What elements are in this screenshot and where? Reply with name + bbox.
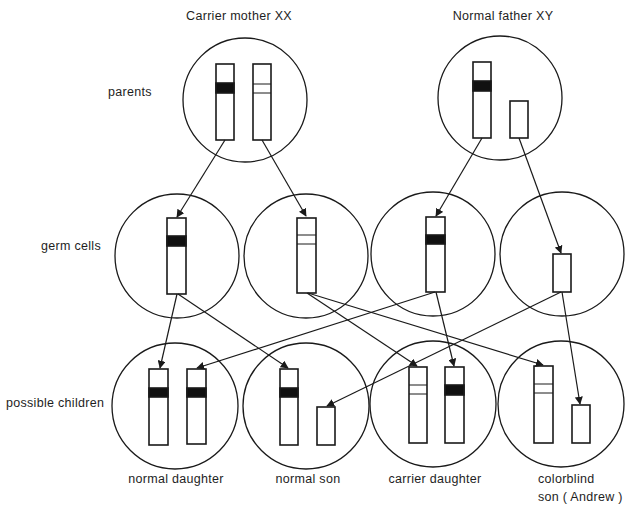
- colorblind-son-circle: [498, 341, 624, 467]
- arrow-germ3-to-carrier-daughter: [436, 292, 454, 366]
- caption-colorblind-son: colorblind son ( Andrew ): [538, 470, 623, 506]
- diagram-graphics: [0, 0, 637, 508]
- arrow-germ2-to-carrier-daughter: [307, 293, 417, 366]
- father-header: Normal father XY: [453, 9, 554, 23]
- arrow-mother-x-normal-to-germ1: [177, 140, 225, 217]
- germ-cell-1-x-normal: [167, 218, 186, 294]
- row-label-germ-cells: germ cells: [41, 239, 101, 253]
- normal-son-circle: [243, 343, 369, 469]
- normal-daughter-x-from-father: [187, 369, 206, 444]
- normal-daughter-x-from-mother: [149, 369, 168, 445]
- father-y-chromosome: [510, 101, 528, 138]
- inheritance-diagram: Carrier mother XX Normal father XY paren…: [0, 0, 637, 508]
- mother-x-normal-chromosome: [216, 64, 234, 140]
- normal-son-y: [317, 407, 335, 445]
- caption-normal-daughter: normal daughter: [128, 472, 224, 486]
- father-x-normal-chromosome: [473, 62, 491, 138]
- arrow-germ1-to-normal-daughter: [160, 294, 177, 368]
- mother-x-colorblind-chromosome: [253, 64, 271, 140]
- arrow-germ4-to-colorblind-son: [562, 292, 580, 404]
- colorblind-son-x-colorblind: [534, 366, 553, 443]
- carrier-daughter-x-colorblind: [409, 367, 427, 443]
- germ-cell-3-x-normal: [426, 217, 445, 292]
- father-cell-circle: [438, 36, 562, 160]
- germ-cell-4-y: [553, 254, 571, 292]
- colorblind-son-y: [572, 405, 590, 443]
- row-label-parents: parents: [108, 85, 152, 99]
- normal-son-x: [280, 369, 298, 445]
- caption-colorblind-son-line1: colorblind: [538, 470, 623, 488]
- carrier-daughter-circle: [370, 341, 496, 467]
- mother-cell-circle: [183, 38, 307, 162]
- arrow-germ2-to-colorblind-son: [308, 293, 543, 365]
- carrier-daughter-x-normal: [445, 367, 464, 443]
- caption-normal-son: normal son: [276, 472, 341, 486]
- normal-daughter-circle: [112, 343, 238, 469]
- arrow-germ3-to-normal-daughter: [197, 292, 435, 368]
- arrow-mother-x-colorblind-to-germ2: [262, 140, 306, 216]
- caption-colorblind-son-line2: son ( Andrew ): [538, 488, 623, 506]
- germ-cell-2-x-colorblind: [297, 218, 316, 293]
- row-label-possible-children: possible children: [6, 396, 104, 410]
- mother-header: Carrier mother XX: [186, 9, 292, 23]
- arrow-father-x-to-germ3: [436, 138, 482, 216]
- arrow-father-y-to-germ4: [519, 138, 561, 253]
- caption-carrier-daughter: carrier daughter: [388, 472, 481, 486]
